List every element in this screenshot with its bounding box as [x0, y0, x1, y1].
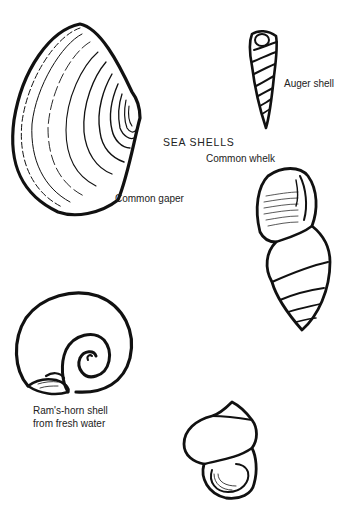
- page-title: SEA SHELLS: [163, 136, 235, 148]
- common-gaper-label: Common gaper: [115, 193, 184, 205]
- common-whelk-drawing: [257, 169, 330, 331]
- sea-shells-illustration: [0, 0, 352, 510]
- auger-shell-label: Auger shell: [284, 78, 334, 90]
- pond-snail-drawing: [184, 402, 257, 498]
- auger-shell-drawing: [250, 31, 277, 128]
- rams-horn-shell-drawing: [16, 293, 131, 394]
- common-gaper-shell-drawing: [13, 24, 140, 215]
- common-whelk-label: Common whelk: [206, 153, 275, 165]
- rams-horn-shell-label-line2: from fresh water: [33, 418, 105, 430]
- rams-horn-shell-label-line1: Ram's-horn shell: [33, 405, 108, 417]
